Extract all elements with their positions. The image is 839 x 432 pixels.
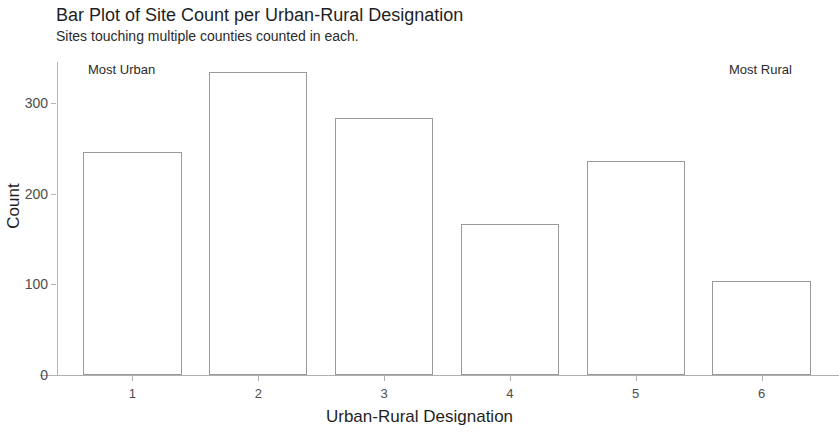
chart-title: Bar Plot of Site Count per Urban-Rural D… — [56, 4, 463, 26]
x-axis-title: Urban-Rural Designation — [0, 407, 839, 427]
x-tick-label-2: 2 — [228, 386, 288, 401]
x-tick-mark-2 — [258, 376, 259, 381]
x-tick-label-3: 3 — [354, 386, 414, 401]
y-tick-mark-200 — [51, 194, 56, 195]
y-axis-title: Count — [4, 156, 24, 256]
bar-6 — [712, 281, 810, 375]
annotation-most-urban: Most Urban — [88, 62, 155, 77]
annotation-most-rural: Most Rural — [729, 62, 792, 77]
x-tick-label-4: 4 — [480, 386, 540, 401]
bar-5 — [587, 161, 685, 375]
y-tick-mark-300 — [51, 103, 56, 104]
x-tick-mark-4 — [510, 376, 511, 381]
y-tick-label-100: 100 — [4, 276, 48, 292]
x-tick-mark-1 — [132, 376, 133, 381]
x-tick-label-6: 6 — [732, 386, 792, 401]
x-tick-mark-5 — [636, 376, 637, 381]
bar-1 — [83, 152, 181, 375]
chart-subtitle: Sites touching multiple counties counted… — [56, 28, 359, 45]
bar-chart-figure: Bar Plot of Site Count per Urban-Rural D… — [0, 0, 839, 432]
x-tick-mark-6 — [762, 376, 763, 381]
bar-4 — [461, 224, 559, 375]
y-tick-label-300: 300 — [4, 95, 48, 111]
y-tick-label-0: 0 — [4, 367, 48, 383]
x-tick-mark-3 — [384, 376, 385, 381]
y-tick-mark-0 — [51, 375, 56, 376]
bar-2 — [209, 72, 307, 375]
y-tick-mark-100 — [51, 284, 56, 285]
plot-panel — [57, 62, 837, 375]
bar-3 — [335, 118, 433, 375]
x-tick-label-5: 5 — [606, 386, 666, 401]
x-axis-line — [40, 375, 839, 376]
x-tick-label-1: 1 — [102, 386, 162, 401]
